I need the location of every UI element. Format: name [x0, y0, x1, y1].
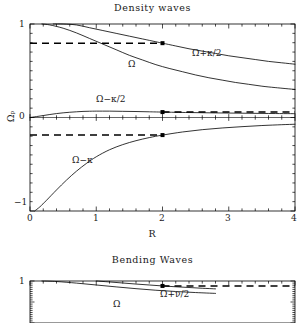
figure-root: Density waves Bending Waves R 1 0 −1 Ωₚ … — [0, 0, 305, 323]
y-tick-label-1-bending: 1 — [19, 276, 25, 286]
curve-label-omega-plus-nu-half: Ω+ν/2 — [160, 289, 189, 299]
curve-label-omega-plus-kappa-half: Ω+κ/2 — [192, 48, 221, 58]
data-marker-1 — [161, 284, 165, 288]
y-tick-label-minus1: −1 — [14, 197, 27, 207]
data-marker-3 — [161, 133, 165, 137]
data-marker-2 — [161, 110, 165, 114]
y-tick-label-1-top: 1 — [19, 19, 25, 29]
panel-title-bending-waves: Bending Waves — [0, 254, 305, 265]
y-tick-label-0: 0 — [19, 111, 25, 121]
curve-label-omega: Ω — [128, 59, 135, 69]
x-tick-label-3: 3 — [225, 213, 231, 223]
x-axis-label-density-waves: R — [0, 228, 305, 239]
x-tick-label-2: 2 — [159, 213, 165, 223]
curve-2 — [42, 24, 295, 89]
x-tick-label-1: 1 — [93, 213, 99, 223]
panel-markers-density-waves — [161, 41, 165, 137]
x-tick-label-4: 4 — [291, 213, 297, 223]
curve-1 — [53, 24, 295, 64]
curve-label-omega-minus-kappa-half: Ω−κ/2 — [96, 94, 125, 104]
curve-label-omega-bending: Ω — [113, 299, 120, 309]
panel-ticks-density-waves — [30, 24, 295, 211]
curve-label-omega-minus-kappa: Ω−κ — [72, 155, 93, 165]
panel-guides-density-waves — [30, 43, 295, 135]
x-tick-label-0: 0 — [27, 213, 33, 223]
data-marker-1 — [161, 41, 165, 45]
plot-canvas — [0, 0, 305, 323]
panel-markers-bending-waves — [161, 284, 165, 288]
curve-2 — [96, 281, 215, 289]
y-axis-label-omega-p: Ωₚ — [6, 111, 16, 122]
panel-title-density-waves: Density waves — [0, 2, 305, 13]
panel-curves-bending-waves — [42, 281, 216, 293]
curve-4 — [35, 124, 295, 211]
